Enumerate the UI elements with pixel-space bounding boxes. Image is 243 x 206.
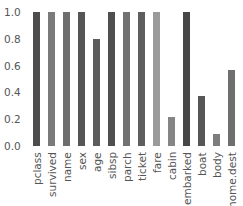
bar-age bbox=[93, 39, 100, 146]
x-tick-label: embarked bbox=[181, 152, 193, 205]
bar-sibsp bbox=[108, 12, 115, 146]
x-tick-label: survived bbox=[46, 152, 58, 197]
bar-fare bbox=[153, 12, 160, 146]
y-tick-label: 0.4 bbox=[4, 86, 30, 98]
x-tick-label: fare bbox=[151, 152, 163, 173]
x-tick-label: age bbox=[91, 152, 103, 172]
bar-embarked bbox=[183, 12, 190, 146]
x-tick-label: name bbox=[61, 152, 73, 182]
bar-ticket bbox=[138, 12, 145, 146]
x-tick-label: sex bbox=[76, 152, 88, 170]
x-tick-label: parch bbox=[121, 152, 133, 182]
bar-home-dest bbox=[228, 70, 235, 146]
y-tick-label: 1.0 bbox=[4, 6, 30, 18]
bar-name bbox=[63, 12, 70, 146]
bar-body bbox=[213, 134, 220, 146]
bar-sex bbox=[78, 12, 85, 146]
x-tick-label: sibsp bbox=[106, 152, 118, 179]
x-tick-label: ticket bbox=[136, 152, 148, 181]
bar-parch bbox=[123, 12, 130, 146]
x-tick-label: body bbox=[211, 152, 223, 178]
x-tick-label: home.dest bbox=[226, 152, 238, 206]
y-tick-label: 0.0 bbox=[4, 140, 30, 152]
bar-boat bbox=[198, 96, 205, 146]
x-tick-label: cabin bbox=[166, 152, 178, 180]
y-tick-label: 0.2 bbox=[4, 113, 30, 125]
x-tick-label: pclass bbox=[31, 152, 43, 185]
bar-pclass bbox=[33, 12, 40, 146]
y-tick-label: 0.6 bbox=[4, 60, 30, 72]
bar-survived bbox=[48, 12, 55, 146]
y-tick-label: 0.8 bbox=[4, 33, 30, 45]
x-tick-label: boat bbox=[196, 152, 208, 176]
bar-cabin bbox=[168, 117, 175, 146]
